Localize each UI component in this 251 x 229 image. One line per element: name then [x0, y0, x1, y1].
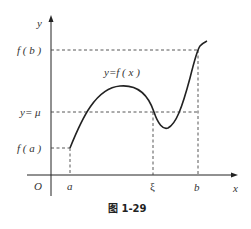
mu-label: y= μ: [19, 106, 41, 118]
function-curve: [70, 41, 207, 148]
x-axis-label: x: [232, 182, 238, 194]
origin-label: O: [34, 180, 42, 192]
b-label: b: [194, 181, 200, 193]
xi-label: ξ: [150, 180, 155, 193]
x-axis-arrow: [231, 173, 238, 178]
figure-caption: 图 1-29: [108, 203, 147, 214]
fa-label: f ( a ): [17, 142, 41, 155]
curve-label: y=f ( x ): [103, 66, 140, 79]
y-axis-label: y: [36, 17, 42, 29]
a-label: a: [67, 180, 73, 192]
fb-label: f ( b ): [17, 44, 41, 57]
y-axis-arrow: [49, 15, 54, 22]
intermediate-value-diagram: y x O f ( b ) y= μ f ( a ) a ξ b y=f ( x…: [0, 0, 251, 229]
